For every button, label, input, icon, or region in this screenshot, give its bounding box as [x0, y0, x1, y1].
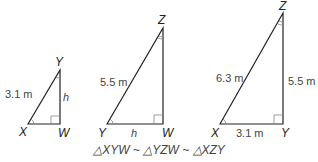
angle-arc-z3b	[278, 24, 283, 25]
angle-arc-x	[31, 119, 34, 124]
vertex-label-x1: X	[18, 125, 28, 139]
vertex-label-w1: W	[58, 126, 71, 140]
side-label-yw: h	[63, 91, 69, 103]
vertex-label-y2: Y	[98, 126, 107, 140]
angle-arc-z2b	[158, 38, 163, 39]
similar-triangles-diagram: X Y W 3.1 m h Y Z W 5.5 m h X Z Y 6.3 m …	[0, 0, 318, 162]
side-label-zy: 5.5 m	[288, 75, 316, 87]
angle-arc-y2	[110, 119, 113, 124]
triangle-xzy: X Z Y 6.3 m 5.5 m 3.1 m	[210, 0, 316, 140]
right-angle-mark-w2	[154, 115, 163, 124]
side-label-yw2: h	[131, 127, 137, 139]
side-label-xy: 3.1 m	[5, 88, 33, 100]
vertex-label-y3: Y	[281, 126, 290, 140]
side-label-xy3: 3.1 m	[236, 127, 264, 139]
angle-arc-x3	[223, 119, 226, 124]
similarity-statement: △XYW ~ △YZW ~ △XZY	[0, 143, 318, 157]
right-angle-mark-w	[51, 116, 60, 124]
vertex-label-w2: W	[162, 126, 175, 140]
vertex-label-z3: Z	[278, 0, 287, 13]
triangle-yzw: Y Z W 5.5 m h	[98, 13, 175, 140]
side-label-yz: 5.5 m	[100, 76, 128, 88]
right-angle-mark-y3	[274, 115, 283, 124]
vertex-label-x3: X	[210, 126, 220, 140]
vertex-label-y1: Y	[55, 55, 64, 69]
triangle-xzy-outline	[220, 13, 283, 124]
triangle-xyw: X Y W 3.1 m h	[5, 55, 71, 140]
vertex-label-z2: Z	[157, 13, 166, 27]
side-label-xz: 6.3 m	[216, 72, 244, 84]
